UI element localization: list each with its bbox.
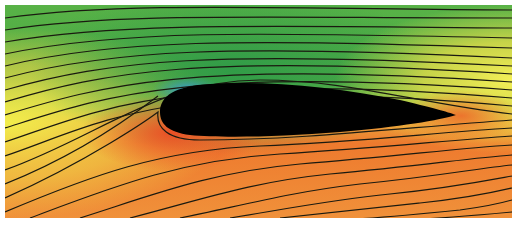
- airfoil-flow-visualization: [0, 0, 518, 225]
- pressure-field: [5, 5, 512, 220]
